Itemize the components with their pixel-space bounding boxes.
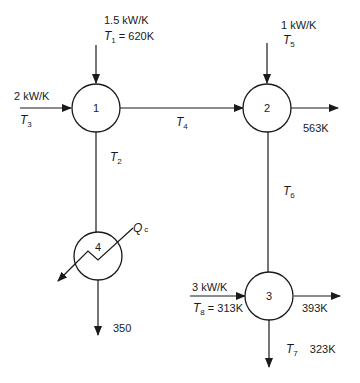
stream-t3-flow: 2 kW/K [14, 90, 50, 102]
stream-t5-flow: 1 kW/K [281, 19, 317, 31]
stream-393k-temp: 393K [302, 302, 328, 314]
stream-t8-flow: 3 kW/K [192, 281, 228, 293]
network-diagram: 1 2 3 4 1.5 kW/K T1 = 620K 2 kW/K T3 T4 … [0, 0, 360, 383]
stream-t3-temp: T3 [20, 113, 32, 129]
node-4-heat-exchanger: 4 [58, 228, 133, 281]
stream-t4-temp: T4 [176, 115, 188, 131]
stream-t6-temp: T6 [283, 184, 295, 200]
stream-t5-temp: T5 [283, 33, 295, 49]
stream-t1-flow: 1.5 kW/K [104, 14, 149, 26]
stream-350-temp: 350 [113, 322, 131, 334]
svg-text:4: 4 [95, 241, 101, 253]
stream-t8-temp: T8 = 313K [193, 301, 244, 317]
svg-text:3: 3 [266, 290, 272, 302]
heat-duty-qc: Qc [133, 221, 148, 235]
node-3: 3 [245, 272, 293, 320]
stream-563k-temp: 563K [303, 122, 329, 134]
svg-text:2: 2 [264, 102, 270, 114]
node-1: 1 [72, 84, 120, 132]
node-2: 2 [243, 84, 291, 132]
svg-text:1: 1 [93, 102, 99, 114]
stream-t2-temp: T2 [110, 150, 122, 166]
stream-t7-temp: T7323K [286, 342, 336, 358]
stream-t1-temp: T1 = 620K [104, 29, 155, 45]
